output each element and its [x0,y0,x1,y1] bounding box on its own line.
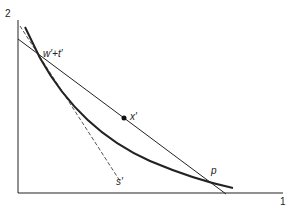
y-axis-label: 2 [5,8,11,19]
point-x-label: x′ [129,111,138,122]
intersection-label: w′+t′ [43,48,64,59]
dashed-line-label: s′ [116,176,124,187]
x-axis-label: 1 [280,196,286,207]
point-p-label: p [210,165,217,176]
diagram-canvas: 2 1 w′+t′ x′ s′ p [0,0,299,216]
point-x-marker [122,116,127,121]
